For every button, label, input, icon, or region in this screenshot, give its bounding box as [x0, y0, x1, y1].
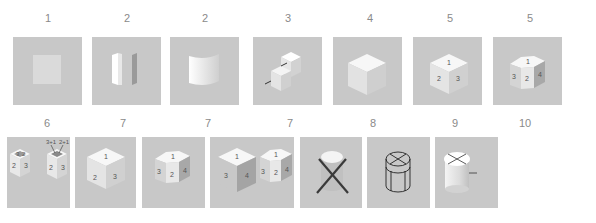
label-r1-2: 2	[92, 12, 162, 24]
panel-curved-surface	[170, 37, 239, 105]
open-boxes-icon: 3 2 2 3 2 3 3+1 2+1	[7, 137, 70, 208]
panel-open-boxes: 3 2 2 3 2 3 3+1 2+1	[7, 137, 70, 208]
panel-stepped-block	[253, 37, 322, 105]
face-label: 3	[157, 168, 161, 175]
label-r1-4: 3	[253, 12, 323, 24]
face-label: 2	[12, 162, 16, 169]
panel-two-planes	[92, 37, 161, 105]
face-label: 1	[235, 153, 239, 160]
annotation: 3+1	[46, 139, 57, 145]
label-r1-5: 4	[335, 12, 405, 24]
panel-cube-numbered: 1 2 3	[75, 137, 136, 208]
stepped-block-icon	[253, 37, 322, 105]
cube-icon	[333, 37, 402, 105]
curved-surface-icon	[170, 37, 239, 105]
marked-cylinder-icon	[435, 137, 498, 208]
face-label: 4	[183, 167, 187, 174]
numbered-cube-icon: 1 2 3	[413, 37, 482, 105]
face-label: 3	[24, 162, 28, 169]
panel-cylinder-crossed	[300, 137, 362, 208]
face-label: 2	[437, 75, 441, 82]
label-r2-5: 8	[338, 117, 408, 129]
face-label: 3	[61, 164, 65, 171]
panel-plain-cube	[333, 37, 402, 105]
face-label: 1	[526, 58, 530, 65]
wireframe-cylinder-icon	[367, 137, 430, 208]
label-r1-7: 5	[495, 12, 565, 24]
pentagonal-prism-icon: 1 3 2 4	[142, 137, 205, 208]
panel-numbered-cube: 1 2 3	[413, 37, 482, 105]
label-r2-7: 10	[490, 117, 560, 129]
panel-pentagonal-prism: 1 3 2 4	[493, 37, 562, 105]
panel-cylinder-wireframe	[367, 137, 430, 208]
annotation: 2+1	[59, 139, 70, 145]
face-label: 4	[538, 71, 542, 78]
panel-pentagonal-prism-2: 1 3 2 4	[142, 137, 205, 208]
panel-flat-square	[13, 37, 82, 105]
face-label: 2	[170, 171, 174, 178]
label-r2-6: 9	[420, 117, 490, 129]
cube-and-prism-icon: 1 3 4 1 3 2 4	[210, 137, 294, 208]
panel-cylinder-marked	[435, 137, 498, 208]
label-r2-1: 6	[12, 117, 82, 129]
flat-square-icon	[13, 37, 82, 105]
label-r1-3: 2	[170, 12, 240, 24]
numbered-cube-icon: 1 2 3	[75, 137, 136, 208]
label-r1-6: 5	[415, 12, 485, 24]
label-r2-3: 7	[173, 117, 243, 129]
face-label: 4	[285, 166, 289, 173]
face-label: 1	[171, 153, 175, 160]
face-label: 3	[113, 173, 117, 180]
face-label: 1	[104, 153, 108, 160]
face-label: 3	[512, 73, 516, 80]
two-planes-icon	[92, 37, 161, 105]
face-label: 3	[224, 172, 228, 179]
face-label: 2	[49, 164, 53, 171]
label-r2-4: 7	[255, 117, 325, 129]
face-label: 4	[245, 172, 249, 179]
face-label: 1	[447, 59, 451, 66]
crossed-cylinder-icon	[300, 137, 362, 208]
face-label: 2	[93, 174, 97, 181]
face-label: 2	[525, 75, 529, 82]
face-label: 3	[261, 168, 265, 175]
panel-cube-and-prism: 1 3 4 1 3 2 4	[210, 137, 294, 208]
label-r1-1: 1	[13, 12, 83, 24]
face-label: 1	[274, 151, 278, 158]
pentagonal-prism-icon: 1 3 2 4	[493, 37, 562, 105]
label-r2-2: 7	[88, 117, 158, 129]
face-label: 3	[456, 75, 460, 82]
face-label: 2	[274, 169, 278, 176]
